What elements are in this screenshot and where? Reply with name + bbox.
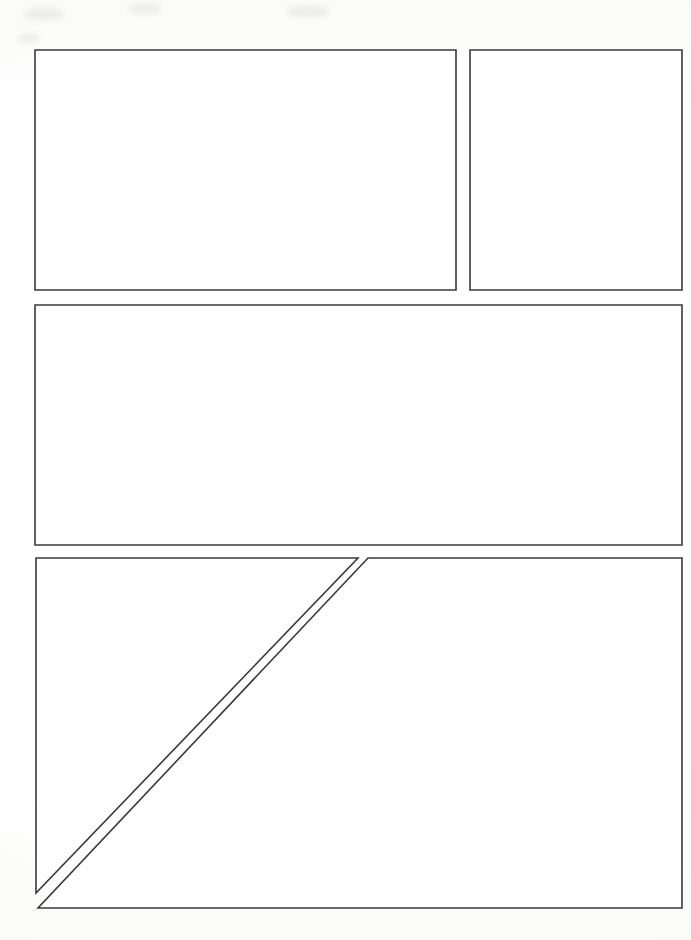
panel-3[interactable] xyxy=(35,305,682,545)
panel-layer xyxy=(0,0,691,940)
panel-2[interactable] xyxy=(470,50,682,290)
panel-1[interactable] xyxy=(35,50,456,290)
comic-page: Blank Comic Book Page Template Panel 1 P… xyxy=(0,0,691,940)
